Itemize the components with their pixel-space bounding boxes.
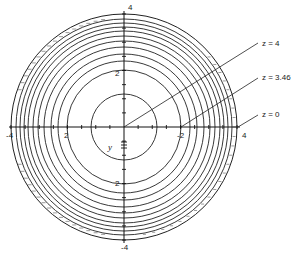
leader-line <box>124 43 258 127</box>
contour-diagram: -4 2 -2 4 4 2 2 -4 y z = 4 z = 3.46 z = … <box>0 0 295 255</box>
leader-lines <box>124 43 258 127</box>
leader-line <box>238 115 258 127</box>
h-axis-label-neg4: -4 <box>6 131 14 140</box>
annotation-z-0: z = 0 <box>262 110 280 119</box>
v-axis-label-2-bottom: 2 <box>115 179 120 188</box>
v-axis-label-2-top: 2 <box>115 69 120 78</box>
v-axis-label-4: 4 <box>128 3 133 12</box>
annotation-z-3-46: z = 3.46 <box>262 73 291 82</box>
h-axis-label-4: 4 <box>242 131 247 140</box>
h-axis-label-neg2: -2 <box>177 131 185 140</box>
h-axis-label-2: 2 <box>64 131 69 140</box>
annotation-z-4: z = 4 <box>262 39 280 48</box>
axis-variable-y: y <box>107 142 112 152</box>
v-axis-label-neg4: -4 <box>121 243 129 252</box>
